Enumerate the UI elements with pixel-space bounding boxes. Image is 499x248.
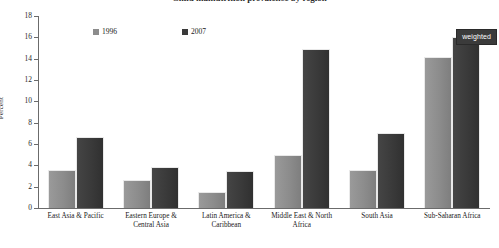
bar-2007-2 [226, 171, 254, 208]
y-tick-label: 12 [25, 76, 33, 84]
bar-1996-2 [198, 192, 226, 208]
bar-group [113, 16, 188, 208]
bar-2007-0 [76, 137, 104, 208]
y-tick-label: 16 [25, 34, 33, 42]
chart-title-text: Child malnutrition prevalence by region [0, 0, 499, 3]
y-tick-label: 2 [28, 183, 32, 191]
x-axis-category-label: East Asia & Pacific [38, 212, 113, 230]
bar-2007-5 [452, 37, 480, 208]
bar-1996-3 [274, 155, 302, 208]
x-axis-category-label: Middle East & North Africa [264, 212, 339, 230]
x-axis-category-label: Latin America & Caribbean [189, 212, 264, 230]
x-axis-category-label: Sub-Saharan Africa [415, 212, 490, 230]
bar-group [189, 16, 264, 208]
x-axis-line [38, 208, 490, 209]
y-tick-label: 10 [25, 98, 33, 106]
x-axis-category-labels: East Asia & PacificEastern Europe & Cent… [38, 212, 490, 230]
bar-1996-0 [48, 170, 76, 208]
chart-title-clipped: Child malnutrition prevalence by region [0, 0, 499, 4]
bar-group [339, 16, 414, 208]
y-tick-mark [34, 208, 38, 209]
y-tick-label: 6 [28, 140, 32, 148]
y-tick-label: 0 [28, 204, 32, 212]
bar-2007-1 [151, 167, 179, 208]
x-axis-category-label: Eastern Europe & Central Asia [113, 212, 188, 230]
bar-1996-1 [123, 180, 151, 208]
bar-2007-4 [377, 133, 405, 208]
bar-1996-5 [424, 57, 452, 208]
x-axis-category-label: South Asia [339, 212, 414, 230]
y-tick-label: 14 [25, 55, 33, 63]
bar-1996-4 [349, 170, 377, 208]
bar-2007-3 [302, 49, 330, 208]
y-tick-label: 8 [28, 119, 32, 127]
y-axis-title: Percent [0, 97, 5, 119]
bar-group [264, 16, 339, 208]
y-tick-label: 4 [28, 162, 32, 170]
bar-groups [38, 16, 490, 208]
weighted-badge: weighted [456, 29, 497, 45]
bar-group [38, 16, 113, 208]
bar-chart: Child malnutrition prevalence by region … [0, 0, 499, 248]
y-tick-label: 18 [25, 12, 33, 20]
plot-area: 024681012141618 [38, 16, 490, 208]
